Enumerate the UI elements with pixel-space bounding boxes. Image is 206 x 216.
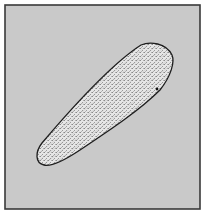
diagram-canvas [0, 0, 206, 216]
diagram-figure [0, 0, 206, 216]
edge-marker [156, 88, 159, 91]
